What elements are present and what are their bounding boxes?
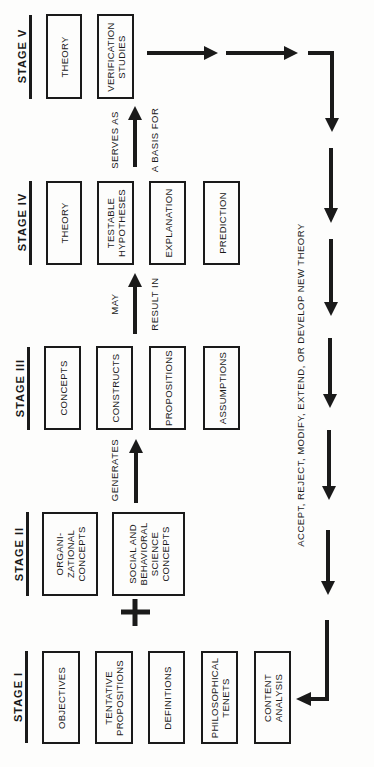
arrow-right-icon [226, 46, 298, 60]
arrow-down-icon [324, 239, 338, 316]
arrow-up-icon [129, 439, 143, 503]
arrow-down-icon [308, 53, 339, 132]
arrow-down-icon [322, 430, 336, 500]
arrow-down-icon [321, 530, 335, 595]
arrow-left-icon [296, 620, 327, 706]
arrow-right-icon [147, 46, 218, 60]
arrow-up-icon [128, 273, 142, 334]
arrow-down-icon [323, 338, 337, 408]
arrow-down-icon [324, 148, 338, 223]
plus-icon [121, 599, 150, 626]
arrow-up-icon [128, 106, 142, 167]
flow-arrows [0, 0, 374, 767]
